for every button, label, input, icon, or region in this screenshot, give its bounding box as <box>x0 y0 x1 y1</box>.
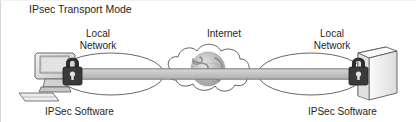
local-network-right-label-line1: Local <box>320 28 344 39</box>
ipsec-transport-pipe <box>45 69 375 80</box>
diagram-artwork <box>1 1 416 122</box>
local-network-left-label: Local Network <box>63 28 133 51</box>
local-network-left-label-line1: Local <box>86 28 110 39</box>
local-network-right-label: Local Network <box>297 28 367 51</box>
page-title: IPsec Transport Mode <box>29 4 132 15</box>
ipsec-software-left-label: IPSec Software <box>45 106 114 117</box>
ipsec-transport-mode-diagram: IPsec Transport Mode Local Network Inter… <box>0 0 416 122</box>
internet-label: Internet <box>187 28 261 40</box>
ipsec-software-right-label: IPSec Software <box>308 106 377 117</box>
internet-cloud <box>167 44 249 91</box>
local-network-right-label-line2: Network <box>314 40 351 51</box>
local-network-left-label-line2: Network <box>80 40 117 51</box>
